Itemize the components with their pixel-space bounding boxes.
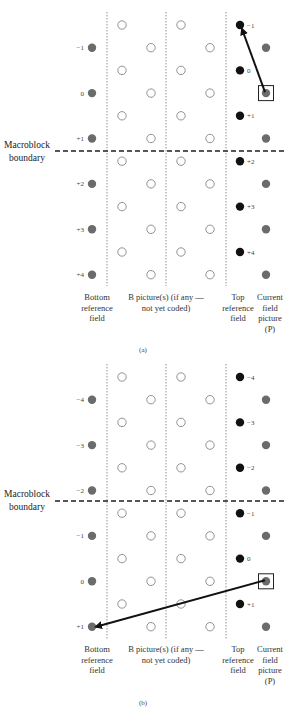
column-label-bottom: field <box>89 313 105 323</box>
b-picture-sample <box>147 532 155 540</box>
current-field-sample <box>262 441 270 449</box>
bottom-field-row-label: 0 <box>81 90 85 98</box>
bottom-field-sample <box>88 44 96 52</box>
b-picture-sample <box>147 180 155 188</box>
top-field-row-label: −3 <box>247 419 255 427</box>
top-field-row-label: +2 <box>247 158 255 166</box>
current-field-sample <box>262 396 270 404</box>
b-picture-sample <box>206 271 214 279</box>
top-field-row-label: +1 <box>247 112 255 120</box>
b-picture-sample <box>147 225 155 233</box>
b-picture-sample <box>147 89 155 97</box>
b-picture-sample <box>118 66 126 74</box>
bottom-field-row-label: −1 <box>77 532 85 540</box>
column-label-current: picture <box>258 313 282 323</box>
top-field-row-label: 0 <box>247 555 251 563</box>
top-field-sample <box>236 464 244 472</box>
b-picture-sample <box>147 623 155 631</box>
b-picture-sample <box>177 248 185 256</box>
b-picture-sample <box>206 441 214 449</box>
b-picture-sample <box>206 134 214 142</box>
column-label-top: Top <box>231 644 244 654</box>
top-field-sample <box>236 157 244 165</box>
panel-caption: (a) <box>139 346 147 354</box>
motion-vector-arrow <box>242 29 265 92</box>
b-picture-sample <box>147 44 155 52</box>
current-field-sample <box>262 89 270 97</box>
bottom-field-row-label: +4 <box>77 271 85 279</box>
column-label-current: (P) <box>265 676 276 686</box>
b-picture-sample <box>118 202 126 210</box>
bottom-field-row-label: +1 <box>77 135 85 143</box>
bottom-field-row-label: +1 <box>77 623 85 631</box>
boundary-label-line1: Macroblock <box>4 140 50 150</box>
top-field-row-label: −1 <box>247 22 255 30</box>
top-field-sample <box>236 248 244 256</box>
b-picture-sample <box>177 509 185 517</box>
bottom-field-row-label: −1 <box>77 44 85 52</box>
current-field-sample <box>262 44 270 52</box>
top-field-sample <box>236 418 244 426</box>
b-picture-sample <box>118 157 126 165</box>
top-field-sample <box>236 66 244 74</box>
b-picture-sample <box>177 66 185 74</box>
top-field-row-label: +3 <box>247 203 255 211</box>
column-label-b: not yet coded) <box>142 303 191 313</box>
bottom-field-sample <box>88 89 96 97</box>
column-label-top: reference <box>222 303 254 313</box>
current-field-sample <box>262 623 270 631</box>
bottom-field-row-label: +2 <box>77 180 85 188</box>
bottom-field-sample <box>88 441 96 449</box>
bottom-field-sample <box>88 623 96 631</box>
b-picture-sample <box>206 623 214 631</box>
b-picture-sample <box>147 486 155 494</box>
bottom-field-row-label: −2 <box>77 487 85 495</box>
b-picture-sample <box>118 509 126 517</box>
b-picture-sample <box>206 44 214 52</box>
top-field-row-label: +4 <box>247 249 255 257</box>
column-label-current: (P) <box>265 324 276 334</box>
top-field-sample <box>236 112 244 120</box>
column-label-bottom: reference <box>81 655 113 665</box>
b-picture-sample <box>118 464 126 472</box>
b-picture-sample <box>206 577 214 585</box>
column-label-bottom: Bottom <box>84 644 110 654</box>
b-picture-sample <box>118 21 126 29</box>
current-field-sample <box>262 532 270 540</box>
b-picture-sample <box>206 180 214 188</box>
current-field-sample <box>262 180 270 188</box>
bottom-field-row-label: 0 <box>81 578 85 586</box>
panel-a: −1−100+1+1+2+2+3+3+4+4Macroblockboundary… <box>4 12 287 354</box>
top-field-row-label: −4 <box>247 374 255 382</box>
column-label-current: field <box>262 655 278 665</box>
column-label-current: picture <box>258 665 282 675</box>
current-field-sample <box>262 271 270 279</box>
b-picture-sample <box>147 271 155 279</box>
b-picture-sample <box>118 600 126 608</box>
column-label-top: Top <box>231 292 244 302</box>
bottom-field-row-label: +3 <box>77 226 85 234</box>
bottom-field-sample <box>88 396 96 404</box>
b-picture-sample <box>177 554 185 562</box>
column-label-current: Current <box>257 292 284 302</box>
b-picture-sample <box>147 396 155 404</box>
bottom-field-sample <box>88 134 96 142</box>
top-field-sample <box>236 21 244 29</box>
column-label-b: not yet coded) <box>142 655 191 665</box>
b-picture-sample <box>177 418 185 426</box>
b-picture-sample <box>118 554 126 562</box>
column-label-b: B picture(s) (if any — <box>128 292 204 302</box>
current-field-sample <box>262 134 270 142</box>
b-picture-sample <box>206 396 214 404</box>
bottom-field-sample <box>88 486 96 494</box>
top-field-sample <box>236 202 244 210</box>
b-picture-sample <box>118 418 126 426</box>
b-picture-sample <box>177 202 185 210</box>
b-picture-sample <box>177 464 185 472</box>
b-picture-sample <box>206 532 214 540</box>
bottom-field-row-label: −3 <box>77 442 85 450</box>
bottom-field-sample <box>88 180 96 188</box>
column-label-top: field <box>230 665 246 675</box>
top-field-sample <box>236 509 244 517</box>
boundary-label-line2: boundary <box>9 153 45 163</box>
